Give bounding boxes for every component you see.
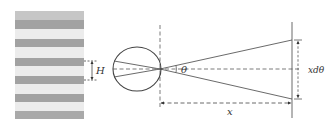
arrowhead-icon <box>297 41 300 45</box>
height-label: xdθ <box>308 65 325 75</box>
stripe-grating <box>15 11 84 119</box>
angle-label: θ <box>181 64 187 75</box>
diagram: H θ x xdθ <box>0 0 335 126</box>
distance-label: x <box>227 106 233 117</box>
eye-diagram <box>113 22 302 118</box>
period-label: H <box>95 65 105 76</box>
arrowhead-icon <box>288 102 292 105</box>
arrowhead-icon <box>161 102 165 105</box>
arrowhead-icon <box>297 95 300 99</box>
